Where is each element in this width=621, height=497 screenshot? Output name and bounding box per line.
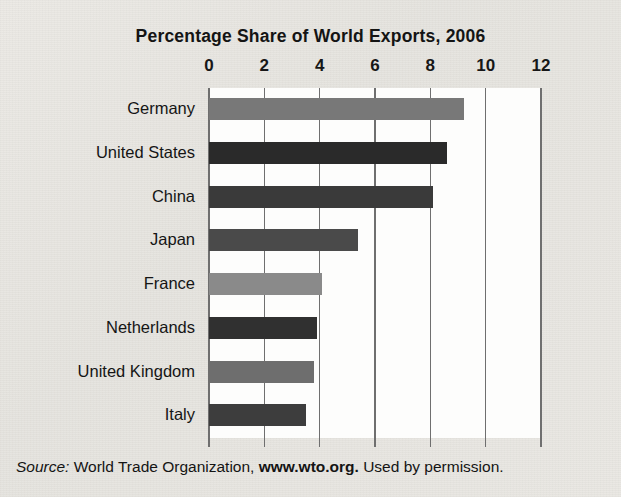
x-tick-label: 0 — [204, 56, 213, 76]
bar-france — [209, 273, 322, 295]
tick-mark-4 — [319, 438, 321, 447]
bar-row: Japan — [0, 219, 621, 263]
tick-mark-6 — [374, 438, 376, 447]
category-label-france: France — [144, 271, 195, 295]
bar-row: Netherlands — [0, 307, 621, 351]
bar-netherlands — [209, 317, 317, 339]
category-label-china: China — [152, 184, 195, 208]
category-label-italy: Italy — [165, 402, 195, 426]
x-tick-label: 8 — [426, 56, 435, 76]
source-organization: World Trade Organization, — [74, 458, 255, 475]
tick-mark-12 — [540, 438, 542, 447]
bar-row: United Kingdom — [0, 351, 621, 395]
bar-row: Italy — [0, 394, 621, 438]
bar-united-states — [209, 142, 447, 164]
category-label-japan: Japan — [150, 227, 195, 251]
bar-row: United States — [0, 132, 621, 176]
x-tick-label: 6 — [370, 56, 379, 76]
bar-chart-figure: Percentage Share of World Exports, 2006 … — [0, 0, 621, 497]
tick-mark-0 — [208, 438, 210, 447]
category-label-netherlands: Netherlands — [106, 315, 195, 339]
bar-china — [209, 186, 433, 208]
bar-italy — [209, 404, 306, 426]
x-tick-label: 2 — [260, 56, 269, 76]
category-label-germany: Germany — [127, 96, 195, 120]
tick-mark-2 — [264, 438, 266, 447]
bar-row: France — [0, 263, 621, 307]
category-label-united-states: United States — [96, 140, 195, 164]
category-label-united-kingdom: United Kingdom — [78, 359, 195, 383]
x-tick-label: 10 — [476, 56, 495, 76]
source-note: Source: World Trade Organization, www.wt… — [16, 458, 504, 476]
source-url[interactable]: www.wto.org. — [259, 458, 359, 475]
bar-japan — [209, 229, 358, 251]
x-tick-label: 4 — [315, 56, 324, 76]
bar-united-kingdom — [209, 361, 314, 383]
tick-mark-10 — [485, 438, 487, 447]
bar-row: Germany — [0, 88, 621, 132]
bar-row: China — [0, 176, 621, 220]
bar-germany — [209, 98, 464, 120]
tick-mark-8 — [430, 438, 432, 447]
source-permission: Used by permission. — [363, 458, 503, 475]
source-label: Source: — [16, 458, 69, 475]
chart-title: Percentage Share of World Exports, 2006 — [0, 26, 621, 47]
x-tick-label: 12 — [532, 56, 551, 76]
